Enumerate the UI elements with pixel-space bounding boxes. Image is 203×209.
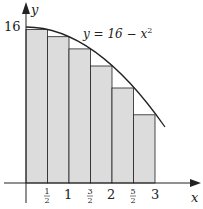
rect-3 — [69, 49, 91, 183]
tick-five-half-num: 5 — [131, 187, 136, 196]
tick-half-den: 2 — [45, 196, 50, 205]
x-axis-arrow-icon — [190, 179, 201, 187]
tick-half-num: 1 — [45, 187, 50, 196]
y-tick-16: 16 — [4, 19, 21, 34]
rect-1 — [26, 29, 48, 183]
rectangles — [26, 29, 155, 183]
rect-2 — [48, 37, 70, 183]
tick-3: 3 — [151, 187, 159, 202]
y-axis-arrow-icon — [22, 2, 30, 14]
x-axis-label: x — [191, 190, 199, 205]
riemann-sum-chart: y x 16 y = 16 − x2 1 2 1 3 2 2 5 2 3 — [0, 0, 203, 209]
rect-6 — [134, 115, 156, 183]
tick-2: 2 — [107, 187, 115, 202]
rect-4 — [91, 66, 113, 183]
curve-label: y = 16 − x2 — [82, 26, 152, 41]
tick-three-half-den: 2 — [88, 196, 93, 205]
tick-1: 1 — [64, 187, 72, 202]
tick-five-half-den: 2 — [131, 196, 136, 205]
tick-three-half-num: 3 — [88, 187, 93, 196]
x-tick-labels: 1 2 1 3 2 2 5 2 3 — [44, 187, 159, 205]
y-axis-label: y — [30, 2, 39, 17]
rect-5 — [112, 88, 134, 183]
